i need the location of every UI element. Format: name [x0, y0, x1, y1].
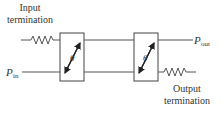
p-out-subscript: out: [201, 40, 210, 48]
output-termination-label-line2: termination: [164, 95, 210, 106]
left-coupler: θ: [60, 33, 84, 81]
p-out-label: P: [193, 34, 201, 46]
p-in-subscript: in: [13, 72, 19, 80]
input-termination-resistor: [21, 36, 60, 44]
input-termination-label-line1: Input: [19, 2, 40, 13]
p-in-label: P: [5, 66, 13, 78]
right-coupler: θ: [134, 33, 158, 81]
output-termination-label-line1: Output: [173, 83, 201, 94]
diagram-canvas: Input termination P in θ θ P out Output …: [0, 0, 221, 113]
output-termination-resistor: [158, 68, 196, 76]
theta-right-label: θ: [143, 53, 148, 63]
input-termination-label-line2: termination: [7, 14, 53, 25]
theta-left-label: θ: [70, 53, 75, 63]
